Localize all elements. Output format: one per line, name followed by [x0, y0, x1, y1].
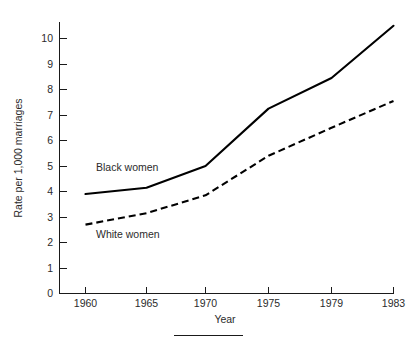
y-tick-label-7: 7: [47, 109, 53, 121]
x-tick-label-1983: 1983: [382, 297, 406, 309]
series-annotation-white-women: White women: [96, 228, 160, 240]
y-tick-label-6: 6: [47, 134, 53, 146]
line-chart: 0 1 2 3 4 5 6 7 8 9 10 1960 1965 1970 19…: [0, 0, 417, 342]
x-tick-label-1970: 1970: [194, 297, 218, 309]
chart-figure: 0 1 2 3 4 5 6 7 8 9 10 1960 1965 1970 19…: [0, 0, 417, 342]
x-tick-label-1965: 1965: [135, 297, 159, 309]
y-tick-labels: 0 1 2 3 4 5 6 7 8 9 10: [41, 32, 53, 299]
y-tick-label-5: 5: [47, 160, 53, 172]
series-annotation-black-women: Black women: [96, 161, 159, 173]
y-tick-label-8: 8: [47, 83, 53, 95]
y-tick-label-2: 2: [47, 236, 53, 248]
x-tick-label-1979: 1979: [320, 297, 344, 309]
x-tick-labels: 1960 1965 1970 1975 1979 1983: [74, 297, 406, 309]
y-tick-marks: [60, 39, 67, 294]
y-tick-label-0: 0: [47, 287, 53, 299]
y-tick-label-1: 1: [47, 262, 53, 274]
x-axis-title: Year: [214, 313, 236, 325]
x-tick-label-1960: 1960: [74, 297, 98, 309]
y-tick-label-4: 4: [47, 185, 53, 197]
y-tick-label-9: 9: [47, 58, 53, 70]
y-axis-title: Rate per 1,000 marriages: [12, 98, 24, 217]
x-tick-marks: [86, 287, 394, 294]
y-tick-label-10: 10: [41, 32, 53, 44]
x-tick-label-1975: 1975: [257, 297, 281, 309]
y-tick-label-3: 3: [47, 211, 53, 223]
